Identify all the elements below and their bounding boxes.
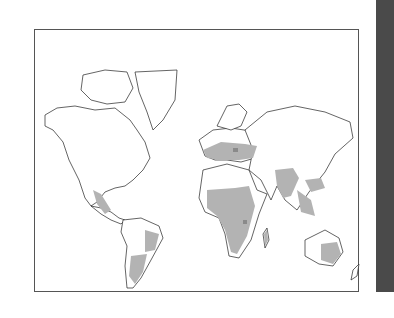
greenland bbox=[135, 70, 177, 130]
arctic-archipelago bbox=[81, 70, 133, 104]
map-frame bbox=[34, 29, 359, 292]
south-america bbox=[121, 218, 163, 288]
dark-spot-europe bbox=[233, 148, 238, 152]
world-map bbox=[35, 30, 360, 293]
north-america bbox=[45, 106, 150, 206]
new-zealand bbox=[351, 264, 359, 280]
scandinavia bbox=[217, 104, 247, 130]
shade-australia bbox=[321, 242, 341, 264]
dark-spot-east-africa bbox=[243, 220, 247, 224]
side-strip bbox=[376, 0, 394, 292]
